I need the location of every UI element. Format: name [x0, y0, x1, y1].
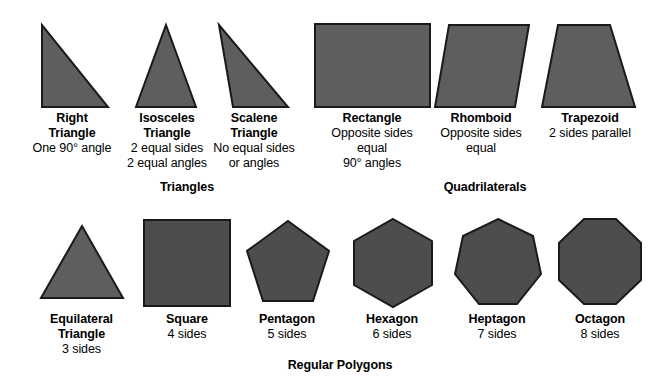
hexagon-desc-line1: 6 sides [337, 327, 447, 342]
hexagon-shape [347, 214, 439, 312]
octagon-shape [553, 214, 647, 312]
heptagon-name: Heptagon [442, 312, 552, 327]
equilateral-triangle-shape [35, 220, 129, 304]
scalene-triangle-desc-line1: No equal sides [196, 141, 312, 156]
isosceles-triangle-shape [130, 20, 204, 114]
rhomboid-desc-line1: Opposite sides [421, 126, 541, 141]
shapes-chart-page: Right Triangle One 90° angle Isosceles T… [0, 0, 670, 379]
scalene-triangle-shape [212, 20, 296, 114]
section-label-quadrilaterals: Quadrilaterals [410, 180, 560, 194]
scalene-triangle-name-line2: Triangle [196, 126, 312, 141]
section-label-regular-polygons: Regular Polygons [255, 358, 425, 372]
pentagon-shape [242, 216, 334, 312]
rectangle-name: Rectangle [312, 111, 432, 126]
trapezoid-desc-line1: 2 sides parallel [530, 126, 650, 141]
square-caption: Square 4 sides [132, 312, 242, 342]
equilateral-triangle-name-line1: Equilateral [25, 312, 138, 327]
trapezoid-caption: Trapezoid 2 sides parallel [530, 111, 650, 141]
hexagon-name: Hexagon [337, 312, 447, 327]
equilateral-triangle-desc-line1: 3 sides [25, 342, 138, 357]
pentagon-caption: Pentagon 5 sides [232, 312, 342, 342]
rectangle-desc-line2: equal [312, 141, 432, 156]
heptagon-caption: Heptagon 7 sides [442, 312, 552, 342]
rhomboid-caption: Rhomboid Opposite sides equal [421, 111, 541, 156]
octagon-caption: Octagon 8 sides [545, 312, 655, 342]
octagon-name: Octagon [545, 312, 655, 327]
scalene-triangle-caption: Scalene Triangle No equal sides or angle… [196, 111, 312, 171]
pentagon-name: Pentagon [232, 312, 342, 327]
trapezoid-name: Trapezoid [530, 111, 650, 126]
right-triangle-shape [36, 20, 114, 114]
heptagon-shape [452, 214, 544, 312]
rectangle-shape [309, 19, 435, 113]
square-shape [138, 214, 236, 312]
rectangle-desc-line3: 90° angles [312, 156, 432, 171]
square-name: Square [132, 312, 242, 327]
heptagon-desc-line1: 7 sides [442, 327, 552, 342]
rectangle-desc-line1: Opposite sides [312, 126, 432, 141]
octagon-desc-line1: 8 sides [545, 327, 655, 342]
square-desc-line1: 4 sides [132, 327, 242, 342]
scalene-triangle-name-line1: Scalene [196, 111, 312, 126]
section-label-triangles: Triangles [127, 180, 247, 194]
hexagon-caption: Hexagon 6 sides [337, 312, 447, 342]
equilateral-triangle-name-line2: Triangle [25, 327, 138, 342]
rhomboid-name: Rhomboid [421, 111, 541, 126]
scalene-triangle-desc-line2: or angles [196, 156, 312, 171]
rectangle-caption: Rectangle Opposite sides equal 90° angle… [312, 111, 432, 171]
rhomboid-desc-line2: equal [421, 141, 541, 156]
equilateral-triangle-caption: Equilateral Triangle 3 sides [25, 312, 138, 357]
trapezoid-shape [536, 19, 644, 113]
pentagon-desc-line1: 5 sides [232, 327, 342, 342]
rhomboid-shape [428, 19, 536, 113]
